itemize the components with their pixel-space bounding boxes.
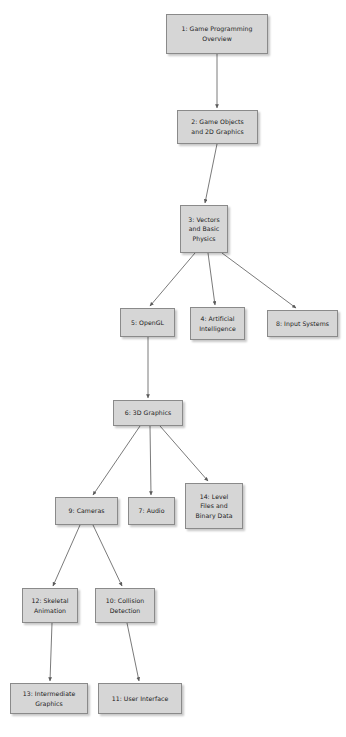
node-n4[interactable]: 4: Artificial Intelligence xyxy=(190,307,245,340)
node-label: 3: Vectors and Basic Physics xyxy=(188,215,219,244)
node-label: 14: Level Files and Binary Data xyxy=(195,492,232,521)
edge-layer xyxy=(0,0,346,737)
node-label: 12: Skeletal Animation xyxy=(31,596,68,615)
edge-n2-to-n3 xyxy=(205,144,217,203)
node-label: 9: Cameras xyxy=(69,506,105,516)
node-n10[interactable]: 10: Collision Detection xyxy=(95,588,155,623)
node-n7[interactable]: 7: Audio xyxy=(128,497,175,525)
node-label: 13: Intermediate Graphics xyxy=(23,689,76,708)
node-n6[interactable]: 6: 3D Graphics xyxy=(113,400,183,426)
edge-n6-to-n7 xyxy=(150,426,151,495)
node-label: 8: Input Systems xyxy=(276,319,329,329)
node-n1[interactable]: 1: Game Programming Overview xyxy=(166,14,268,54)
edge-n3-to-n5 xyxy=(150,253,195,306)
edge-n10-to-n11 xyxy=(127,623,139,681)
node-label: 7: Audio xyxy=(139,506,165,516)
edge-n12-to-n13 xyxy=(50,623,52,681)
node-label: 2: Game Objects and 2D Graphics xyxy=(191,117,244,136)
edge-n9-to-n12 xyxy=(53,525,80,586)
node-n8[interactable]: 8: Input Systems xyxy=(267,310,338,337)
diagram-canvas: 1: Game Programming Overview2: Game Obje… xyxy=(0,0,346,737)
node-n9[interactable]: 9: Cameras xyxy=(55,497,118,525)
node-label: 6: 3D Graphics xyxy=(125,408,172,418)
node-n12[interactable]: 12: Skeletal Animation xyxy=(22,588,78,623)
node-label: 1: Game Programming Overview xyxy=(181,24,252,43)
node-n11[interactable]: 11: User Interface xyxy=(98,683,182,714)
node-label: 10: Collision Detection xyxy=(106,596,145,615)
edge-n9-to-n10 xyxy=(93,525,122,586)
edge-n6-to-n14 xyxy=(160,426,208,481)
node-n5[interactable]: 5: OpenGL xyxy=(120,308,175,337)
edge-n3-to-n4 xyxy=(208,253,215,305)
node-n13[interactable]: 13: Intermediate Graphics xyxy=(10,683,88,714)
node-n14[interactable]: 14: Level Files and Binary Data xyxy=(185,483,243,529)
edge-n6-to-n9 xyxy=(93,426,140,495)
edge-group xyxy=(50,54,296,681)
node-label: 11: User Interface xyxy=(112,694,169,704)
node-label: 4: Artificial Intelligence xyxy=(199,314,236,333)
node-n3[interactable]: 3: Vectors and Basic Physics xyxy=(180,205,228,253)
node-n2[interactable]: 2: Game Objects and 2D Graphics xyxy=(177,110,258,144)
node-label: 5: OpenGL xyxy=(131,318,164,328)
edge-n3-to-n8 xyxy=(222,253,296,308)
